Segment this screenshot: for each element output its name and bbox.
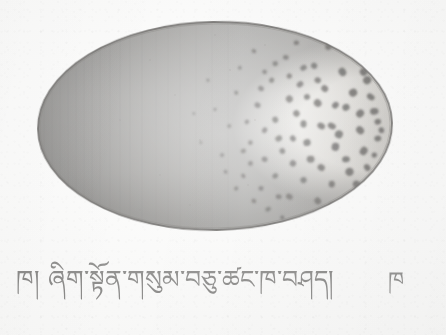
egg-spot	[346, 47, 352, 54]
egg-spot	[350, 216, 357, 223]
egg-spot	[353, 52, 360, 59]
egg-spot	[322, 215, 328, 221]
egg-spot	[341, 200, 350, 209]
egg-spot	[307, 156, 315, 163]
scanned-page: ཁ། ཞིག་སྟོན་གསུམ་བཅུ་ཚང་ཁ་བཤད། ཁ	[0, 0, 446, 335]
egg-spot	[335, 31, 343, 39]
caption-right-syllable: ཁ	[388, 254, 404, 319]
caption-main-text: ཁ། ཞིག་སྟོན་གསུམ་བཅུ་ཚང་ཁ་བཤད།	[16, 251, 334, 322]
